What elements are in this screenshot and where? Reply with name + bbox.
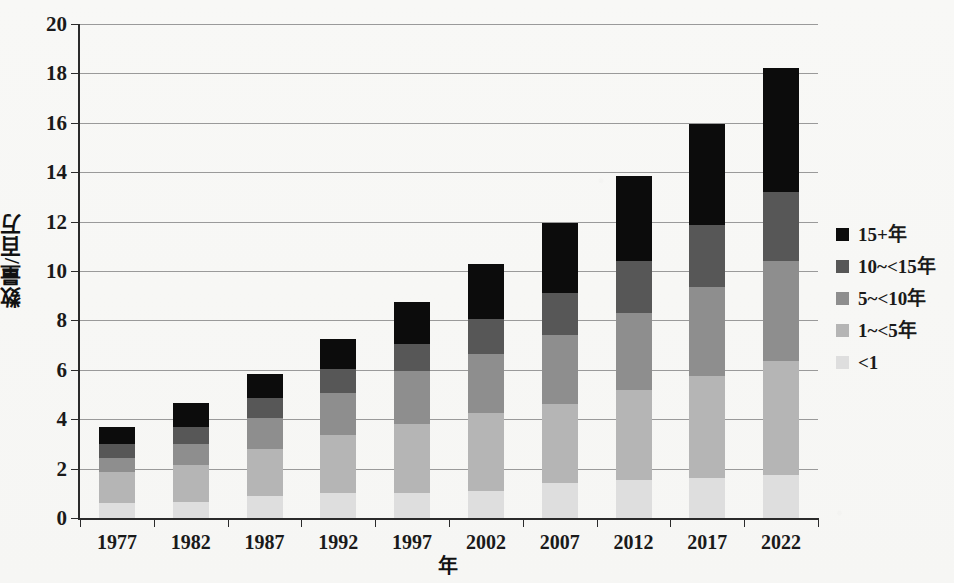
stacked-bar-chart: 数量/百万 0246810121416182019771982198719921… — [0, 0, 954, 583]
bar-segment[interactable] — [689, 376, 725, 479]
y-tick-mark — [71, 271, 80, 272]
bar-segment[interactable] — [173, 465, 209, 502]
bar-segment[interactable] — [99, 503, 135, 518]
x-tick-mark — [449, 518, 450, 527]
bar-segment[interactable] — [173, 427, 209, 444]
bar-segment[interactable] — [763, 192, 799, 261]
y-tick-mark — [71, 518, 80, 519]
bar-segment[interactable] — [320, 393, 356, 435]
y-tick-label: 14 — [46, 162, 67, 183]
legend-item[interactable]: 15+年 — [836, 218, 954, 250]
y-axis-title: 数量/百万 — [2, 213, 30, 308]
x-tick-mark — [228, 518, 229, 527]
bar-segment[interactable] — [616, 390, 652, 480]
bar-segment[interactable] — [468, 491, 504, 518]
bar-1997[interactable] — [394, 302, 430, 518]
bar-segment[interactable] — [247, 398, 283, 418]
bar-segment[interactable] — [99, 427, 135, 444]
x-tick-label: 1997 — [392, 532, 432, 552]
bar-segment[interactable] — [99, 444, 135, 458]
bar-2002[interactable] — [468, 264, 504, 518]
y-tick-label: 16 — [46, 112, 67, 133]
x-tick-label: 2012 — [614, 532, 654, 552]
bar-segment[interactable] — [247, 449, 283, 496]
bar-segment[interactable] — [542, 483, 578, 518]
bar-segment[interactable] — [689, 287, 725, 376]
legend-label: 10~<15年 — [858, 257, 936, 276]
y-tick-label: 0 — [57, 508, 68, 529]
bar-1977[interactable] — [99, 427, 135, 518]
bar-segment[interactable] — [468, 319, 504, 354]
chart-legend: 15+年10~<15年5~<10年1~<5年<1 — [836, 218, 954, 378]
bar-2017[interactable] — [689, 124, 725, 518]
x-tick-mark — [818, 518, 819, 527]
y-tick-mark — [71, 172, 80, 173]
bar-segment[interactable] — [247, 374, 283, 399]
bar-segment[interactable] — [173, 403, 209, 426]
bar-2007[interactable] — [542, 223, 578, 518]
x-tick-mark — [154, 518, 155, 527]
bar-segment[interactable] — [247, 418, 283, 449]
bar-segment[interactable] — [468, 413, 504, 491]
bar-segment[interactable] — [320, 369, 356, 394]
bar-segment[interactable] — [763, 361, 799, 475]
legend-item[interactable]: 1~<5年 — [836, 314, 954, 346]
bar-segment[interactable] — [468, 264, 504, 320]
x-tick-label: 2022 — [761, 532, 801, 552]
y-gridline — [80, 73, 818, 74]
bar-segment[interactable] — [616, 261, 652, 313]
bar-segment[interactable] — [616, 176, 652, 261]
legend-label: <1 — [858, 353, 878, 372]
legend-item[interactable]: 5~<10年 — [836, 282, 954, 314]
y-tick-mark — [71, 24, 80, 25]
y-tick-label: 18 — [46, 63, 67, 84]
bar-segment[interactable] — [173, 444, 209, 465]
bar-1987[interactable] — [247, 374, 283, 518]
y-tick-label: 10 — [46, 261, 67, 282]
bar-segment[interactable] — [99, 472, 135, 503]
legend-swatch-icon — [836, 356, 849, 369]
x-tick-label: 1987 — [245, 532, 285, 552]
bar-segment[interactable] — [320, 339, 356, 369]
bar-segment[interactable] — [247, 496, 283, 518]
legend-item[interactable]: 10~<15年 — [836, 250, 954, 282]
x-tick-label: 2007 — [540, 532, 580, 552]
bar-segment[interactable] — [173, 502, 209, 518]
bar-1992[interactable] — [320, 339, 356, 518]
bar-segment[interactable] — [394, 344, 430, 371]
legend-label: 1~<5年 — [858, 321, 917, 340]
bar-segment[interactable] — [763, 68, 799, 192]
x-tick-mark — [670, 518, 671, 527]
y-tick-mark — [71, 419, 80, 420]
bar-segment[interactable] — [542, 223, 578, 293]
bar-segment[interactable] — [689, 478, 725, 518]
y-tick-label: 6 — [57, 359, 68, 380]
x-tick-mark — [523, 518, 524, 527]
bar-segment[interactable] — [616, 313, 652, 390]
bar-segment[interactable] — [763, 475, 799, 518]
bar-segment[interactable] — [394, 493, 430, 518]
bar-segment[interactable] — [394, 302, 430, 344]
x-tick-label: 2017 — [687, 532, 727, 552]
bar-1982[interactable] — [173, 403, 209, 518]
plot-area: 0246810121416182019771982198719921997200… — [78, 24, 818, 520]
bar-segment[interactable] — [320, 435, 356, 493]
bar-segment[interactable] — [689, 124, 725, 225]
bar-segment[interactable] — [320, 493, 356, 518]
bar-segment[interactable] — [542, 404, 578, 483]
bar-segment[interactable] — [763, 261, 799, 361]
bar-segment[interactable] — [394, 371, 430, 424]
bar-segment[interactable] — [542, 335, 578, 404]
bar-segment[interactable] — [394, 424, 430, 493]
bar-segment[interactable] — [468, 354, 504, 413]
y-tick-mark — [71, 469, 80, 470]
y-tick-label: 2 — [57, 458, 68, 479]
bar-segment[interactable] — [616, 480, 652, 518]
bar-segment[interactable] — [542, 293, 578, 335]
bar-segment[interactable] — [689, 225, 725, 287]
legend-item[interactable]: <1 — [836, 346, 954, 378]
bar-2022[interactable] — [763, 68, 799, 518]
bar-segment[interactable] — [99, 458, 135, 473]
bar-2012[interactable] — [616, 176, 652, 518]
x-tick-label: 1977 — [97, 532, 137, 552]
